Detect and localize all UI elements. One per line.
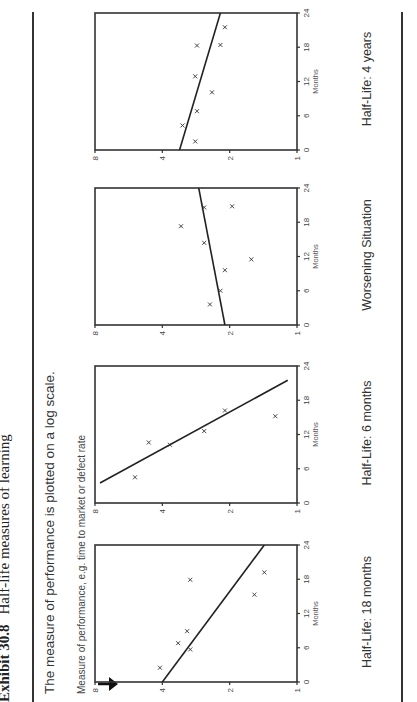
data-point [202,429,206,433]
plot-frame [95,545,297,682]
y-tick-label: 8 [91,155,100,160]
data-point [147,440,151,444]
trend-line [162,545,264,682]
x-tick-label: 6 [302,288,311,293]
x-tick-label: 0 [302,679,311,684]
data-point [188,647,192,651]
y-tick-label: 2 [226,330,235,335]
x-tick-label: 12 [302,609,311,618]
x-tick-label: 18 [302,574,311,583]
panel-caption-3: Worsening Situation [360,185,374,325]
data-point [252,593,256,597]
data-point [185,629,189,633]
data-point [202,241,206,245]
x-tick-label: 12 [302,77,311,86]
x-tick-label: 6 [302,645,311,650]
data-point [195,44,199,48]
data-point [193,139,197,143]
data-point [179,224,183,228]
y-tick-label: 2 [226,508,235,513]
x-tick-label: 0 [302,147,311,152]
x-tick-label: 12 [302,430,311,439]
panel-caption-2: Half-Life: 6 months [360,363,374,503]
x-tick-label: 24 [302,361,311,370]
y-tick-label: 4 [158,687,167,692]
data-point [273,414,277,418]
plot-frame [95,13,297,150]
y-tick-label: 8 [91,508,100,513]
data-point [208,302,212,306]
x-tick-label: 6 [302,113,311,118]
data-point [193,74,197,78]
panel-caption-1: Half-Life: 18 months [360,542,374,682]
chart-panel-2: 124806121824Months [91,361,320,513]
x-tick-label: 6 [302,466,311,471]
data-point [188,578,192,582]
exhibit-page: Exhibit 30.8Half-life measures of learni… [0,0,417,702]
x-tick-label: 0 [302,500,311,505]
data-point [223,409,227,413]
data-point [223,25,227,29]
y-tick-label: 1 [293,687,302,692]
trend-line [180,13,221,150]
data-point [262,570,266,574]
data-point [249,257,253,261]
data-point [181,123,185,127]
y-tick-label: 2 [226,687,235,692]
y-tick-label: 4 [158,508,167,513]
x-tick-label: 18 [302,217,311,226]
bottom-rule [401,12,403,702]
chart-panel-3: 124806121824Months [91,183,320,335]
chart-panels: 124806121824Months124806121824Months1248… [0,0,417,702]
data-point [223,268,227,272]
data-point [133,475,137,479]
y-tick-label: 4 [158,330,167,335]
x-tick-label: 0 [302,322,311,327]
data-point [218,43,222,47]
x-axis-label: Months [311,422,320,447]
y-tick-label: 1 [293,155,302,160]
x-axis-label: Months [311,244,320,269]
data-point [195,109,199,113]
y-tick-label: 2 [226,155,235,160]
x-axis-label: Months [311,69,320,94]
x-axis-label: Months [311,601,320,626]
x-tick-label: 18 [302,395,311,404]
data-point [158,666,162,670]
x-tick-label: 18 [302,42,311,51]
data-point [210,90,214,94]
chart-panel-1: 124806121824Months [91,540,320,692]
x-tick-label: 24 [302,183,311,192]
plot-frame [95,188,297,325]
plot-frame [95,366,297,503]
y-tick-label: 1 [293,508,302,513]
x-tick-label: 24 [302,8,311,17]
data-point [230,204,234,208]
y-tick-label: 1 [293,330,302,335]
chart-panel-4: 124806121824Months [91,8,320,160]
x-tick-label: 24 [302,540,311,549]
panel-caption-4: Half-Life: 4 years [360,9,374,149]
y-tick-label: 8 [91,330,100,335]
x-tick-label: 12 [302,252,311,261]
y-tick-label: 4 [158,155,167,160]
trend-line [100,380,288,483]
data-point [176,641,180,645]
y-tick-label: 8 [91,687,100,692]
